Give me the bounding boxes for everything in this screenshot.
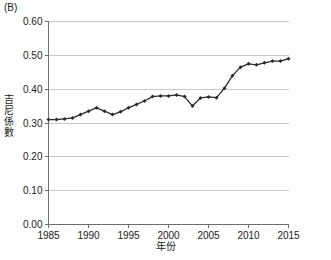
data-point — [263, 61, 267, 65]
x-axis-label: 年份 — [0, 241, 331, 253]
gridlines — [49, 22, 289, 191]
line-chart: 0.000.100.200.300.400.500.60 19851990199… — [0, 0, 331, 260]
y-tick-label: 0.40 — [23, 84, 43, 95]
x-tick-label: 2000 — [157, 230, 180, 241]
x-tick-label: 1985 — [37, 230, 60, 241]
x-tick-label: 1990 — [77, 230, 100, 241]
x-tick-labels: 1985199019952000200520102015 — [37, 230, 300, 241]
data-point — [55, 118, 59, 122]
data-point — [247, 62, 251, 66]
data-point — [207, 95, 211, 99]
data-point — [47, 118, 51, 122]
x-tick-label: 2015 — [277, 230, 300, 241]
data-point — [103, 109, 107, 113]
figure-panel-b: (B) 吉尼係數 0.000.100.200.300.400.500.60 19… — [0, 0, 331, 260]
y-tick-label: 0.60 — [23, 16, 43, 27]
data-point — [159, 94, 163, 98]
y-tick-label: 0.30 — [23, 118, 43, 129]
data-point — [63, 117, 67, 121]
data-point — [87, 109, 91, 113]
data-point — [271, 59, 275, 63]
data-point — [71, 116, 75, 120]
x-tick-label: 2010 — [237, 230, 260, 241]
y-tick-label: 0.00 — [23, 219, 43, 230]
data-point — [111, 113, 115, 117]
data-point — [167, 94, 171, 98]
data-point — [95, 106, 99, 110]
data-point — [287, 57, 291, 61]
y-tick-label: 0.10 — [23, 185, 43, 196]
x-tick-label: 2005 — [197, 230, 220, 241]
y-tick-labels: 0.000.100.200.300.400.500.60 — [23, 16, 43, 230]
y-tick-label: 0.50 — [23, 50, 43, 61]
y-tick-label: 0.20 — [23, 151, 43, 162]
data-point — [175, 93, 179, 97]
x-tick-label: 1995 — [117, 230, 140, 241]
data-point — [135, 102, 139, 106]
data-point — [279, 59, 283, 63]
data-point — [255, 63, 259, 67]
data-point — [79, 113, 83, 117]
